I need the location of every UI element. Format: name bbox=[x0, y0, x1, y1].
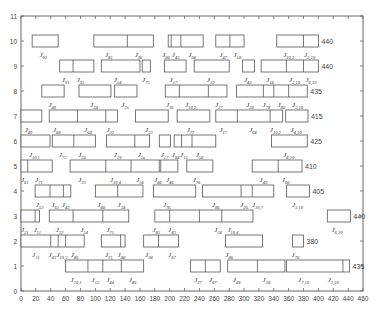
row-1: J10,1J12J44J86J27J67J88J28J7,10J3,10435 bbox=[66, 260, 365, 286]
x-tick-label: 180 bbox=[149, 295, 160, 302]
task-block: J40 bbox=[21, 110, 42, 135]
x-tick-label: 280 bbox=[224, 295, 235, 302]
task-label: J31 bbox=[32, 251, 40, 260]
task-label: J45 bbox=[172, 51, 180, 60]
task-label: J88 bbox=[233, 276, 241, 285]
task-label: J23 bbox=[78, 176, 86, 185]
task-label: J15 bbox=[180, 151, 188, 160]
task-bar bbox=[35, 185, 71, 197]
task-block: J10,3J3,10 bbox=[277, 35, 319, 61]
x-tick-label: 40 bbox=[47, 295, 55, 302]
task-label: J10,2 bbox=[270, 126, 282, 136]
task-bar bbox=[21, 160, 52, 172]
task-label: J61 bbox=[51, 201, 59, 210]
task-label: J02 bbox=[39, 51, 47, 60]
row-makespan-value: 435 bbox=[353, 263, 365, 270]
task-block: J76 bbox=[153, 185, 195, 210]
task-block: J49J66 bbox=[252, 160, 302, 185]
task-bar bbox=[144, 235, 179, 247]
task-block: J72J26 bbox=[52, 135, 95, 160]
task-label: J58 bbox=[234, 51, 242, 60]
row-makespan-value: 415 bbox=[311, 113, 323, 120]
task-bar bbox=[21, 110, 42, 122]
task-bar bbox=[49, 210, 129, 222]
task-block: J10,1 bbox=[21, 135, 50, 161]
y-tick-label: 3 bbox=[13, 213, 17, 220]
row-9: J91J92J54J75J17J19J42J18J2,10J8,10440 bbox=[60, 60, 334, 86]
task-bar bbox=[243, 60, 255, 72]
task-label: J68 bbox=[249, 126, 257, 135]
task-block: J23 bbox=[135, 110, 168, 135]
task-label: J17 bbox=[161, 151, 169, 160]
y-tick-label: 9 bbox=[13, 63, 17, 70]
task-label: J71 bbox=[35, 176, 43, 185]
task-bar bbox=[194, 60, 229, 72]
task-label: J4,10 bbox=[291, 126, 303, 136]
task-label: J3,10 bbox=[292, 101, 304, 111]
task-label: J28 bbox=[246, 101, 254, 110]
task-block: J54 bbox=[101, 60, 140, 85]
row-makespan-value: 425 bbox=[310, 138, 322, 145]
task-block: J88J64J32 bbox=[49, 110, 117, 135]
task-block: J77 bbox=[177, 110, 210, 135]
task-block: J84J15J58 bbox=[172, 135, 216, 160]
task-block: J5,10 bbox=[286, 185, 309, 211]
task-block: J27J67 bbox=[191, 260, 221, 285]
row-makespan-value: 410 bbox=[305, 163, 317, 170]
row-5: J81J71J23J10,4J36J88J46J76J49J66410 bbox=[21, 160, 317, 186]
task-label: J88 bbox=[154, 176, 162, 185]
y-tick-label: 8 bbox=[13, 88, 17, 95]
task-block: J86J26J10,7 bbox=[202, 185, 273, 211]
task-bar bbox=[202, 185, 273, 197]
task-bar bbox=[327, 210, 350, 222]
task-label: J26 bbox=[240, 201, 248, 210]
task-block: J91J92 bbox=[60, 60, 94, 85]
task-label: J92 bbox=[77, 76, 85, 85]
task-bar bbox=[21, 135, 50, 147]
row-8: J40J34J25J36J10,2J27J28J78J88J3,10435 bbox=[42, 85, 322, 111]
task-block: J88J28 bbox=[228, 260, 285, 285]
task-label: J98 bbox=[188, 51, 196, 60]
y-tick-label: 0 bbox=[13, 288, 17, 295]
task-label: J64 bbox=[84, 126, 92, 135]
task-label: J10,4 bbox=[110, 176, 122, 186]
row-6: J10,1J72J26J29J2eJ17J84J15J58J4,10425 bbox=[21, 135, 322, 161]
task-label: J43 bbox=[168, 226, 176, 235]
x-tick-label: 300 bbox=[239, 295, 250, 302]
task-block: J28J78J88J3,10 bbox=[237, 85, 308, 111]
row-7: J40J88J64J32J23J77J17J68J10,2J4,10415 bbox=[21, 110, 323, 136]
task-block: J86 bbox=[225, 235, 262, 260]
task-bar bbox=[177, 110, 210, 122]
task-label: J17 bbox=[219, 126, 227, 135]
task-label: J19 bbox=[207, 76, 215, 85]
task-block: J19 bbox=[194, 60, 229, 85]
task-label: J77 bbox=[187, 126, 195, 135]
task-bar bbox=[164, 60, 186, 72]
y-tick-label: 4 bbox=[13, 188, 17, 195]
y-tick-label: 1 bbox=[13, 263, 17, 270]
y-tick-label: 11 bbox=[10, 13, 17, 20]
task-label: J83 bbox=[153, 226, 161, 235]
task-label: J27 bbox=[194, 276, 202, 285]
task-bar bbox=[292, 235, 303, 247]
task-block: J02 bbox=[32, 35, 58, 60]
task-label: J36 bbox=[166, 101, 174, 110]
x-tick-label: 20 bbox=[32, 295, 40, 302]
x-tick-label: 160 bbox=[135, 295, 146, 302]
task-label: J26 bbox=[78, 151, 86, 160]
task-label: J49 bbox=[260, 176, 268, 185]
task-block: J36J10,2J27 bbox=[165, 85, 227, 111]
row-makespan-value: 435 bbox=[310, 88, 322, 95]
y-tick-label: 2 bbox=[13, 238, 17, 245]
task-bar bbox=[168, 35, 203, 47]
task-label: J36 bbox=[136, 176, 144, 185]
row-4: J52J61J42J88J34J76J86J26J10,7J5,10405 bbox=[35, 185, 324, 211]
task-bar bbox=[95, 185, 143, 197]
x-tick-label: 200 bbox=[164, 295, 175, 302]
task-block: J83J43J58J10,4 bbox=[153, 210, 253, 236]
y-tick-label: 7 bbox=[13, 113, 17, 120]
task-label: J6,10 bbox=[331, 226, 343, 236]
task-block: J40 bbox=[42, 85, 64, 110]
task-label: J5,10 bbox=[292, 201, 304, 211]
task-label: J10,7 bbox=[252, 201, 264, 211]
